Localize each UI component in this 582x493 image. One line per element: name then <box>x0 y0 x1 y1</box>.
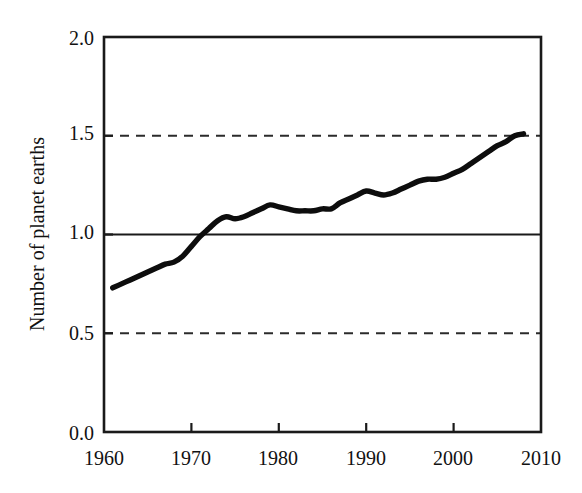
y-tick-label-0-0: 0.0 <box>69 422 94 444</box>
y-tick-label-2-0: 2.0 <box>69 27 94 49</box>
x-tick-label-1980: 1980 <box>258 447 298 469</box>
x-tick-label-1970: 1970 <box>171 447 211 469</box>
x-tick-label-2000: 2000 <box>433 447 473 469</box>
y-tick-label-1-0: 1.0 <box>69 221 94 243</box>
x-tick-label-1960: 1960 <box>84 447 124 469</box>
line-chart: Number of planet earths 2.0 1.5 1.0 0.5 … <box>0 0 582 493</box>
x-tick-label-1990: 1990 <box>346 447 386 469</box>
y-tick-label-0-5: 0.5 <box>69 322 94 344</box>
y-tick-label-1-5: 1.5 <box>69 122 94 144</box>
chart-figure: Number of planet earths 2.0 1.5 1.0 0.5 … <box>0 0 582 493</box>
chart-background <box>0 0 582 493</box>
x-tick-label-2010: 2010 <box>521 447 561 469</box>
y-axis-title: Number of planet earths <box>26 137 49 331</box>
